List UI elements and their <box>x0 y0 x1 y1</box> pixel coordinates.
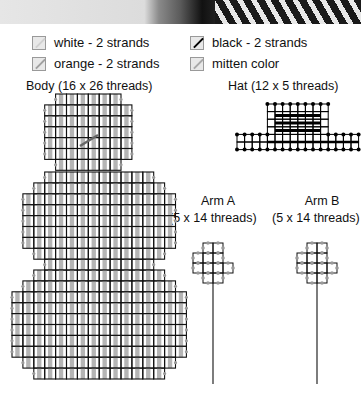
pattern-charts <box>0 0 361 396</box>
